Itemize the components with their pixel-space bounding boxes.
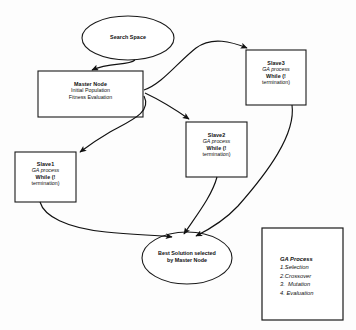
node-master-node[interactable] (38, 71, 143, 117)
edge-search-space-to-master (92, 60, 135, 70)
edge-master-to-slave2 (145, 93, 189, 119)
edge-slave2-to-best-solution (184, 177, 217, 234)
node-slave3[interactable] (246, 50, 306, 105)
node-best-solution[interactable] (142, 232, 232, 284)
node-slave2[interactable] (186, 122, 247, 177)
node-search-space[interactable] (82, 16, 174, 60)
diagram-canvas-container: Search Space Master Node Initial Populat… (0, 0, 356, 330)
edge-slave1-to-best-solution (40, 202, 172, 237)
node-slave1[interactable] (15, 152, 76, 202)
legend-box (262, 228, 343, 320)
diagram-svg (0, 0, 356, 330)
